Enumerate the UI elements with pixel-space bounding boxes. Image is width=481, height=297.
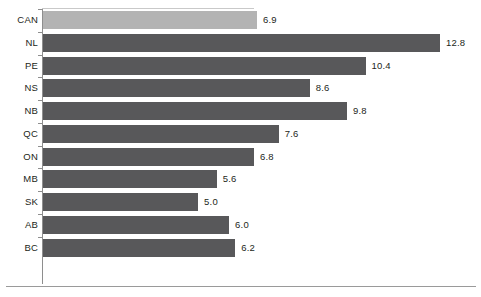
bar-ns[interactable] bbox=[43, 79, 310, 97]
axis-tick bbox=[38, 77, 42, 78]
axis-tick bbox=[38, 214, 42, 215]
axis-tick bbox=[38, 55, 42, 56]
bar-on[interactable] bbox=[43, 148, 254, 166]
bar-value-can: 6.9 bbox=[263, 11, 277, 29]
bar-sk[interactable] bbox=[43, 193, 198, 211]
bar-row: SK5.0 bbox=[0, 191, 481, 214]
bar-row: NS8.6 bbox=[0, 77, 481, 100]
category-label-nb: NB bbox=[0, 100, 38, 123]
bar-qc[interactable] bbox=[43, 125, 279, 143]
category-label-qc: QC bbox=[0, 123, 38, 146]
bar-nb[interactable] bbox=[43, 102, 347, 120]
category-label-on: ON bbox=[0, 146, 38, 169]
bar-row: NL12.8 bbox=[0, 32, 481, 55]
bar-value-sk: 5.0 bbox=[204, 193, 218, 211]
category-label-pe: PE bbox=[0, 55, 38, 78]
category-label-ab: AB bbox=[0, 214, 38, 237]
bar-value-pe: 10.4 bbox=[372, 57, 391, 75]
category-label-mb: MB bbox=[0, 168, 38, 191]
category-label-sk: SK bbox=[0, 191, 38, 214]
bar-pe[interactable] bbox=[43, 57, 366, 75]
axis-tick bbox=[38, 32, 42, 33]
bar-nl[interactable] bbox=[43, 34, 440, 52]
bottom-rule bbox=[6, 286, 476, 287]
axis-tick bbox=[38, 123, 42, 124]
bar-ab[interactable] bbox=[43, 216, 229, 234]
category-label-ns: NS bbox=[0, 77, 38, 100]
bar-can[interactable] bbox=[43, 11, 257, 29]
axis-tick bbox=[38, 9, 42, 10]
bar-value-ab: 6.0 bbox=[235, 216, 249, 234]
bar-row: AB6.0 bbox=[0, 214, 481, 237]
bar-value-bc: 6.2 bbox=[241, 239, 255, 257]
axis-tick bbox=[38, 100, 42, 101]
bar-value-nb: 9.8 bbox=[353, 102, 367, 120]
bar-row: CAN6.9 bbox=[0, 9, 481, 32]
category-label-can: CAN bbox=[0, 9, 38, 32]
bar-row: ON6.8 bbox=[0, 146, 481, 169]
bar-chart: CAN6.9NL12.8PE10.4NS8.6NB9.8QC7.6ON6.8MB… bbox=[0, 0, 481, 297]
axis-tick bbox=[38, 168, 42, 169]
bar-value-ns: 8.6 bbox=[316, 79, 330, 97]
bar-value-nl: 12.8 bbox=[446, 34, 465, 52]
category-label-bc: BC bbox=[0, 237, 38, 260]
bar-row: MB5.6 bbox=[0, 168, 481, 191]
axis-tick bbox=[38, 237, 42, 238]
bar-row: NB9.8 bbox=[0, 100, 481, 123]
category-label-nl: NL bbox=[0, 32, 38, 55]
axis-tick bbox=[38, 191, 42, 192]
bar-value-on: 6.8 bbox=[260, 148, 274, 166]
bar-row: BC6.2 bbox=[0, 237, 481, 260]
bar-value-mb: 5.6 bbox=[223, 170, 237, 188]
bar-row: PE10.4 bbox=[0, 55, 481, 78]
bar-value-qc: 7.6 bbox=[285, 125, 299, 143]
bar-bc[interactable] bbox=[43, 239, 235, 257]
axis-tick bbox=[38, 146, 42, 147]
bar-mb[interactable] bbox=[43, 170, 217, 188]
bar-row: QC7.6 bbox=[0, 123, 481, 146]
plot-area: CAN6.9NL12.8PE10.4NS8.6NB9.8QC7.6ON6.8MB… bbox=[0, 0, 481, 288]
